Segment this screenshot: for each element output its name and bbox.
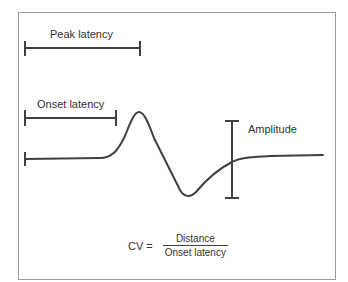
- onset-latency-label: Onset latency: [37, 98, 104, 110]
- conduction-velocity-formula: CV = Distance Onset latency: [128, 233, 228, 258]
- peak-latency-label: Peak latency: [50, 28, 113, 40]
- amplitude-label: Amplitude: [248, 123, 297, 135]
- onset-latency-bar: [25, 110, 116, 126]
- peak-latency-bar: [25, 41, 140, 56]
- formula-denominator: Onset latency: [163, 245, 228, 258]
- formula-fraction: Distance Onset latency: [163, 233, 228, 258]
- formula-lhs: CV =: [128, 240, 153, 252]
- formula-numerator: Distance: [174, 233, 217, 245]
